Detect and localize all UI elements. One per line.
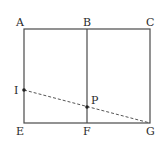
label-P: P	[91, 94, 99, 107]
point-P	[85, 105, 89, 109]
label-A: A	[15, 16, 25, 29]
label-E: E	[16, 125, 24, 138]
label-F: F	[83, 125, 91, 138]
label-I: I	[14, 84, 18, 97]
label-B: B	[83, 16, 91, 29]
label-C: C	[146, 16, 154, 29]
point-I	[22, 88, 26, 92]
label-G: G	[146, 125, 155, 138]
geometry-diagram: A B C E F G I P	[0, 0, 163, 148]
